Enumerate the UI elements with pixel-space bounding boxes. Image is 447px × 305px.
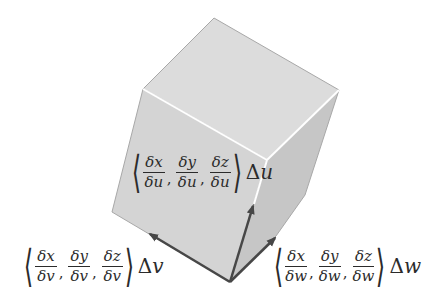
close-angle-bracket: ⟩	[376, 244, 385, 288]
delta-v: Δv	[138, 254, 164, 278]
fraction-dy-du: δy δu	[176, 155, 198, 190]
vector-w-label: ⟨ δx δw , δy δw , δz δw ⟩ Δw	[274, 244, 421, 288]
fraction-dz-du: δz δu	[210, 155, 231, 190]
fraction-dz-dv: δz δv	[102, 249, 123, 284]
close-angle-bracket: ⟩	[233, 150, 242, 194]
open-angle-bracket: ⟨	[274, 244, 283, 288]
close-angle-bracket: ⟩	[125, 244, 134, 288]
fraction-dx-dw: δx δw	[285, 249, 307, 284]
open-angle-bracket: ⟨	[132, 150, 141, 194]
fraction-dy-dv: δy δv	[68, 249, 90, 284]
vector-u-label: ⟨ δx δu , δy δu , δz δu ⟩ Δu	[132, 150, 273, 194]
open-angle-bracket: ⟨	[24, 244, 33, 288]
fraction-dx-dv: δx δv	[35, 249, 57, 284]
fraction-dy-dw: δy δw	[319, 249, 341, 284]
fraction-dx-du: δx δu	[143, 155, 165, 190]
delta-w: Δw	[390, 254, 422, 278]
fraction-dz-dw: δz δw	[352, 249, 374, 284]
delta-u: Δu	[246, 160, 273, 184]
vector-v-label: ⟨ δx δv , δy δv , δz δv ⟩ Δv	[24, 244, 164, 288]
